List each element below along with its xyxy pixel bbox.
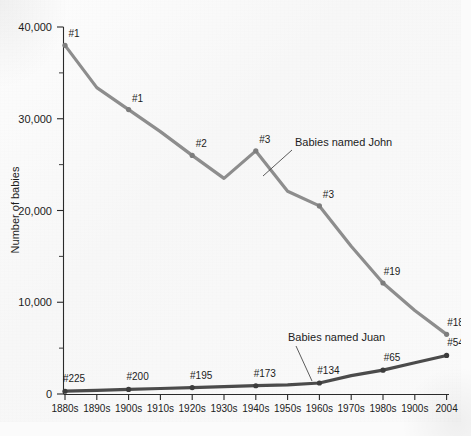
data-point-rank-label: #65 bbox=[384, 352, 401, 363]
x-axis-ticks bbox=[65, 395, 447, 401]
x-tick-label: 1910s bbox=[147, 403, 174, 414]
data-point-marker bbox=[317, 380, 322, 385]
data-point-rank-label: #1 bbox=[132, 93, 144, 104]
data-point-marker bbox=[380, 280, 385, 285]
data-point-rank-label: #3 bbox=[259, 134, 271, 145]
x-tick-label: 1930s bbox=[210, 403, 237, 414]
data-point-rank-label: #195 bbox=[190, 370, 213, 381]
x-tick-label: 1900s bbox=[115, 403, 142, 414]
series-line-babies-named-john bbox=[65, 45, 447, 334]
y-axis-tick-labels: 010,00020,00030,00040,000 bbox=[18, 21, 52, 400]
x-tick-label: 1900s bbox=[401, 403, 428, 414]
data-point-labels-juan: #225#200#195#173#134#65#54 bbox=[63, 337, 461, 384]
y-tick-label: 30,000 bbox=[18, 113, 52, 125]
data-point-marker bbox=[444, 353, 449, 358]
data-point-marker bbox=[126, 107, 131, 112]
y-tick-label: 20,000 bbox=[18, 205, 52, 217]
data-point-marker bbox=[253, 148, 258, 153]
data-point-marker bbox=[126, 387, 131, 392]
x-tick-label: 1980s bbox=[369, 403, 396, 414]
series-markers-babies-named-john bbox=[62, 43, 449, 337]
data-point-marker bbox=[253, 383, 258, 388]
data-point-marker bbox=[317, 203, 322, 208]
data-point-rank-label: #1 bbox=[68, 28, 80, 39]
series-annotation-juan: Babies named Juan bbox=[288, 331, 385, 343]
data-point-labels-john: #1#1#2#3#3#19#18 bbox=[68, 28, 461, 328]
data-point-rank-label: #3 bbox=[323, 189, 335, 200]
x-tick-label: 1940s bbox=[242, 403, 269, 414]
data-point-marker bbox=[380, 368, 385, 373]
data-point-rank-label: #19 bbox=[384, 266, 401, 277]
data-point-marker bbox=[444, 332, 449, 337]
data-point-marker bbox=[62, 43, 67, 48]
data-point-marker bbox=[190, 153, 195, 158]
leader-line-juan bbox=[296, 346, 312, 381]
data-point-marker bbox=[62, 389, 67, 394]
y-tick-label: 40,000 bbox=[18, 21, 52, 33]
data-point-rank-label: #173 bbox=[254, 368, 277, 379]
x-tick-label: 1920s bbox=[179, 403, 206, 414]
data-point-rank-label: #18 bbox=[447, 317, 461, 328]
series-annotation-john: Babies named John bbox=[295, 136, 392, 148]
x-tick-label: 1880s bbox=[51, 403, 78, 414]
y-axis-ticks bbox=[57, 27, 64, 394]
x-tick-label: 2004 bbox=[435, 403, 458, 414]
data-point-rank-label: #134 bbox=[317, 365, 340, 376]
y-tick-label: 10,000 bbox=[18, 296, 52, 308]
y-axis-title: Number of babies bbox=[9, 166, 21, 253]
x-tick-label: 1890s bbox=[83, 403, 110, 414]
x-tick-label: 1970s bbox=[338, 403, 365, 414]
x-tick-label: 1960s bbox=[306, 403, 333, 414]
data-point-rank-label: #225 bbox=[63, 373, 86, 384]
y-tick-label: 0 bbox=[46, 388, 52, 400]
data-point-rank-label: #200 bbox=[126, 371, 149, 382]
data-point-rank-label: #54 bbox=[447, 337, 461, 348]
data-point-marker bbox=[190, 385, 195, 390]
data-point-rank-label: #2 bbox=[196, 138, 208, 149]
x-tick-label: 1950s bbox=[274, 403, 301, 414]
x-axis-tick-labels: 1880s1890s1900s1910s1920s1930s1940s1950s… bbox=[51, 403, 458, 414]
